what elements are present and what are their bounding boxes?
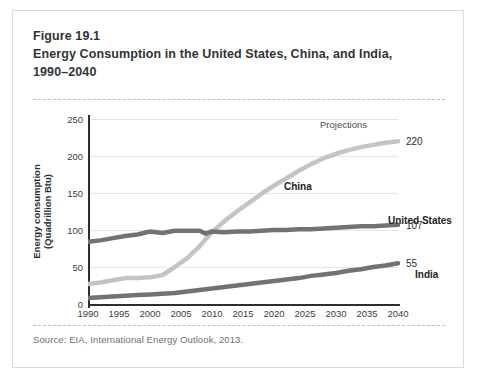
series-label-china: China [284,181,312,192]
x-tick-2005: 2005 [170,308,191,319]
source-note: Source: EIA, International Energy Outloo… [33,334,243,345]
y-tick-100: 100 [67,225,83,236]
y-tick-50: 50 [72,262,83,273]
x-tick-2015: 2015 [232,308,253,319]
x-tick-1990: 1990 [77,308,98,319]
x-tick-1995: 1995 [108,308,129,319]
x-tick-2030: 2030 [325,308,346,319]
y-axis-title-line-1: Energy consumption [31,119,42,304]
x-tick-2040: 2040 [387,308,408,319]
y-tick-150: 150 [67,188,83,199]
series-lines [88,119,400,305]
y-tick-200: 200 [67,151,83,162]
end-value-india: 55 [406,258,417,269]
x-tick-2035: 2035 [356,308,377,319]
figure-card: Figure 19.1 Energy Consumption in the Un… [12,10,464,368]
projections-annotation: Projections [320,119,367,130]
divider-bottom [33,325,445,326]
end-value-china: 220 [406,136,423,147]
series-line-india [88,263,398,298]
x-tick-2020: 2020 [263,308,284,319]
series-label-india: India [415,269,438,280]
figure-title-block: Figure 19.1 Energy Consumption in the Un… [33,27,445,81]
figure-title-line-1: Energy Consumption in the United States,… [33,45,445,63]
plot-box: 250 200 150 100 50 0 1990 1995 2000 2005… [88,119,398,304]
figure-number: Figure 19.1 [33,27,445,45]
series-line-united-states [88,225,398,242]
series-line-china [88,141,398,284]
x-tick-2025: 2025 [294,308,315,319]
end-value-united-states: 107 [406,219,423,230]
y-axis-title: Energy consumption (Quadrillion Btu) [31,119,45,304]
y-tick-250: 250 [67,114,83,125]
x-tick-2000: 2000 [139,308,160,319]
divider-top [33,99,445,100]
figure-title-line-2: 1990–2040 [33,63,445,81]
x-tick-2010: 2010 [201,308,222,319]
chart-area: Energy consumption (Quadrillion Btu) 250… [13,103,465,323]
y-axis-title-line-2: (Quadrillion Btu) [42,119,53,304]
